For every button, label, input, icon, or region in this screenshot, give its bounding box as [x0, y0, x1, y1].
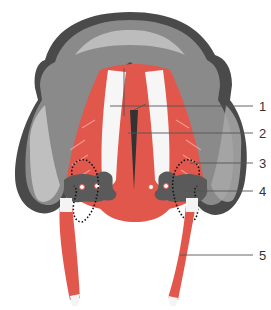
label-2: 2	[259, 127, 266, 140]
hyoid-right	[155, 172, 208, 203]
left-tendon-cap	[60, 198, 72, 212]
label-1: 1	[259, 100, 266, 113]
stylohyoid-right	[168, 205, 196, 300]
anatomy-figure	[0, 0, 271, 310]
label-5: 5	[259, 249, 266, 262]
hyoid-left	[64, 172, 117, 203]
label-3: 3	[259, 157, 266, 170]
stylohyoid-left-tendon	[70, 294, 80, 306]
label-4: 4	[259, 185, 266, 198]
right-tendon-cap	[186, 198, 198, 212]
